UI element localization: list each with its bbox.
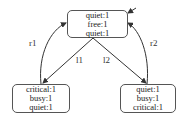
edge-r2	[128, 23, 148, 84]
node-line: quiet:1	[29, 103, 53, 112]
edge-label-r2: r2	[150, 38, 158, 48]
edge-label-l2: l2	[103, 55, 110, 65]
state-node-top[interactable]: quiet:1 free:1 quiet:1	[67, 10, 128, 38]
edge-label-r1: r1	[29, 38, 37, 48]
state-node-right[interactable]: quiet:1 busy:1 critical:1	[120, 84, 176, 113]
initial-arrow	[128, 8, 136, 13]
edge-r1	[41, 23, 66, 84]
node-line: quiet:1	[86, 29, 110, 38]
state-node-left[interactable]: critical:1 busy:1 quiet:1	[12, 84, 70, 113]
edge-l1	[43, 38, 93, 83]
edge-label-l1: l1	[76, 55, 83, 65]
node-line: critical:1	[133, 103, 163, 112]
edge-l2	[93, 38, 146, 83]
